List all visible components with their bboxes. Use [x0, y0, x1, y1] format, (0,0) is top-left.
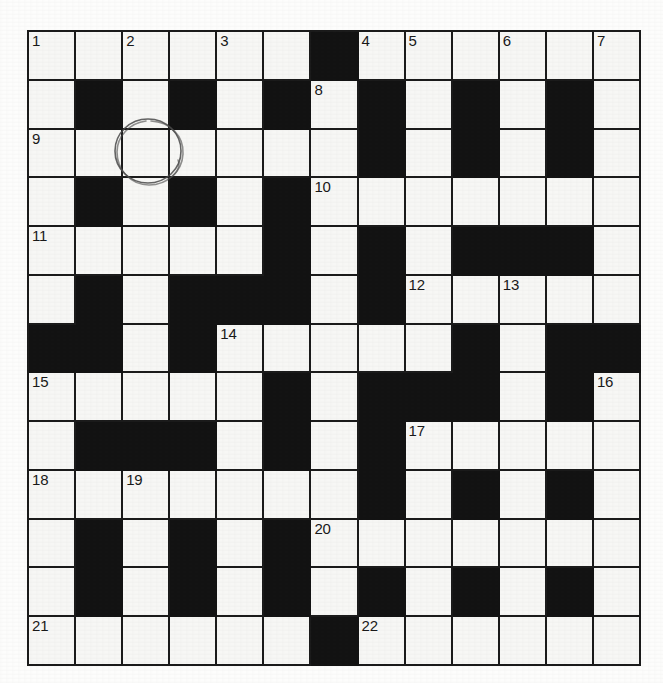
grid-cell[interactable] — [594, 422, 641, 471]
grid-cell[interactable] — [406, 81, 453, 130]
grid-cell[interactable] — [123, 81, 170, 130]
grid-cell[interactable] — [453, 32, 500, 81]
grid-cell[interactable]: 16 — [594, 373, 641, 422]
grid-cell[interactable]: 11 — [29, 227, 76, 276]
grid-cell[interactable] — [170, 373, 217, 422]
grid-cell[interactable] — [76, 32, 123, 81]
grid-cell[interactable]: 3 — [217, 32, 264, 81]
grid-cell[interactable] — [311, 568, 358, 617]
grid-cell[interactable]: 19 — [123, 471, 170, 520]
grid-cell[interactable]: 8 — [311, 81, 358, 130]
grid-cell[interactable] — [123, 373, 170, 422]
grid-cell[interactable]: 22 — [359, 617, 406, 666]
grid-cell[interactable] — [547, 32, 594, 81]
grid-cell[interactable] — [76, 227, 123, 276]
grid-cell[interactable] — [217, 617, 264, 666]
grid-cell[interactable] — [500, 617, 547, 666]
grid-cell[interactable] — [170, 227, 217, 276]
grid-cell[interactable] — [123, 130, 170, 179]
grid-cell[interactable] — [217, 227, 264, 276]
grid-cell[interactable] — [123, 568, 170, 617]
grid-cell[interactable] — [547, 178, 594, 227]
grid-cell[interactable] — [594, 178, 641, 227]
grid-cell[interactable] — [170, 32, 217, 81]
grid-cell[interactable]: 12 — [406, 276, 453, 325]
grid-cell[interactable]: 6 — [500, 32, 547, 81]
grid-cell[interactable] — [500, 471, 547, 520]
grid-cell[interactable] — [594, 276, 641, 325]
grid-cell[interactable] — [123, 178, 170, 227]
grid-cell[interactable] — [29, 81, 76, 130]
grid-cell[interactable] — [594, 227, 641, 276]
grid-cell[interactable] — [594, 568, 641, 617]
grid-cell[interactable] — [453, 617, 500, 666]
grid-cell[interactable] — [500, 178, 547, 227]
grid-cell[interactable] — [217, 422, 264, 471]
grid-cell[interactable] — [311, 276, 358, 325]
grid-cell[interactable]: 7 — [594, 32, 641, 81]
grid-cell[interactable] — [264, 325, 311, 374]
grid-cell[interactable] — [500, 130, 547, 179]
grid-cell[interactable] — [500, 373, 547, 422]
grid-cell[interactable] — [217, 471, 264, 520]
grid-cell[interactable] — [500, 422, 547, 471]
grid-cell[interactable] — [547, 520, 594, 569]
grid-cell[interactable] — [311, 373, 358, 422]
grid-cell[interactable] — [76, 373, 123, 422]
grid-cell[interactable] — [29, 520, 76, 569]
grid-cell[interactable] — [123, 276, 170, 325]
grid-cell[interactable] — [170, 617, 217, 666]
grid-cell[interactable]: 15 — [29, 373, 76, 422]
grid-cell[interactable] — [406, 227, 453, 276]
grid-cell[interactable] — [217, 520, 264, 569]
grid-cell[interactable] — [123, 227, 170, 276]
grid-cell[interactable] — [217, 178, 264, 227]
grid-cell[interactable]: 17 — [406, 422, 453, 471]
grid-cell[interactable] — [453, 178, 500, 227]
grid-cell[interactable]: 9 — [29, 130, 76, 179]
grid-cell[interactable] — [359, 178, 406, 227]
grid-cell[interactable] — [594, 81, 641, 130]
grid-cell[interactable] — [311, 471, 358, 520]
grid-cell[interactable] — [217, 568, 264, 617]
grid-cell[interactable]: 21 — [29, 617, 76, 666]
grid-cell[interactable] — [500, 520, 547, 569]
grid-cell[interactable]: 5 — [406, 32, 453, 81]
grid-cell[interactable] — [594, 617, 641, 666]
grid-cell[interactable] — [594, 520, 641, 569]
grid-cell[interactable] — [170, 130, 217, 179]
grid-cell[interactable] — [29, 276, 76, 325]
grid-cell[interactable] — [264, 471, 311, 520]
grid-cell[interactable] — [500, 81, 547, 130]
grid-cell[interactable] — [406, 520, 453, 569]
grid-cell[interactable] — [359, 520, 406, 569]
grid-cell[interactable] — [76, 471, 123, 520]
grid-cell[interactable] — [29, 178, 76, 227]
grid-cell[interactable] — [264, 130, 311, 179]
grid-cell[interactable] — [264, 617, 311, 666]
grid-cell[interactable]: 1 — [29, 32, 76, 81]
crossword-grid[interactable]: 12345678910111213141516171819202122 — [27, 30, 641, 666]
grid-cell[interactable] — [76, 617, 123, 666]
grid-cell[interactable] — [453, 276, 500, 325]
grid-cell[interactable] — [123, 325, 170, 374]
grid-cell[interactable] — [311, 325, 358, 374]
grid-cell[interactable] — [547, 276, 594, 325]
grid-cell[interactable]: 13 — [500, 276, 547, 325]
grid-cell[interactable] — [217, 130, 264, 179]
grid-cell[interactable] — [406, 325, 453, 374]
grid-cell[interactable] — [76, 130, 123, 179]
grid-cell[interactable] — [500, 568, 547, 617]
grid-cell[interactable] — [453, 422, 500, 471]
grid-cell[interactable]: 4 — [359, 32, 406, 81]
grid-cell[interactable]: 2 — [123, 32, 170, 81]
grid-cell[interactable] — [406, 568, 453, 617]
grid-cell[interactable]: 14 — [217, 325, 264, 374]
grid-cell[interactable] — [311, 422, 358, 471]
grid-cell[interactable] — [500, 325, 547, 374]
grid-cell[interactable] — [29, 422, 76, 471]
grid-cell[interactable] — [547, 617, 594, 666]
grid-cell[interactable] — [406, 130, 453, 179]
grid-cell[interactable] — [170, 471, 217, 520]
grid-cell[interactable] — [406, 178, 453, 227]
